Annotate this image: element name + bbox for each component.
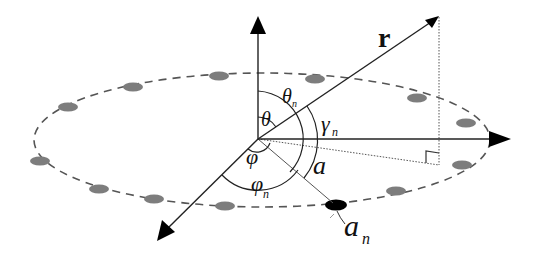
array-element <box>456 119 476 128</box>
svg-text:a: a <box>344 209 359 242</box>
svg-text:φ: φ <box>251 171 263 196</box>
array-element <box>305 75 325 84</box>
array-element <box>58 103 78 112</box>
svg-text:n: n <box>362 230 370 247</box>
z-axis-arrow-icon <box>250 16 266 34</box>
svg-text:n: n <box>263 187 269 201</box>
array-element <box>452 161 472 170</box>
array-element <box>89 185 109 194</box>
array-geometry-diagram: r θ θ n γ n φ φ n a a n <box>0 0 534 253</box>
array-element <box>209 72 229 81</box>
array-element <box>386 187 406 196</box>
right-angle-marker <box>426 151 439 163</box>
gamma-n-label: γ n <box>321 111 338 139</box>
array-element <box>407 94 427 103</box>
svg-text:n: n <box>292 98 297 109</box>
array-element <box>30 157 50 166</box>
svg-text:θ: θ <box>282 85 292 107</box>
phi-label: φ <box>246 144 258 169</box>
svg-text:n: n <box>332 125 338 139</box>
array-element <box>215 202 235 211</box>
an-leader-tick <box>330 214 334 218</box>
svg-text:γ: γ <box>321 111 331 136</box>
phi-n-label: φ n <box>251 171 269 201</box>
theta-n-label: θ n <box>282 85 297 109</box>
array-element <box>123 83 143 92</box>
r-horizontal-projection <box>258 139 439 165</box>
a-radius-label: a <box>313 151 326 180</box>
x-axis-arrow-icon <box>489 131 511 147</box>
r-vector-arrow-icon <box>425 16 439 28</box>
a-n-label: a n <box>344 209 370 247</box>
r-label: r <box>378 22 390 53</box>
y-axis <box>168 139 258 228</box>
r-vector <box>258 20 434 139</box>
theta-label: θ <box>261 108 271 130</box>
array-element <box>144 195 164 204</box>
